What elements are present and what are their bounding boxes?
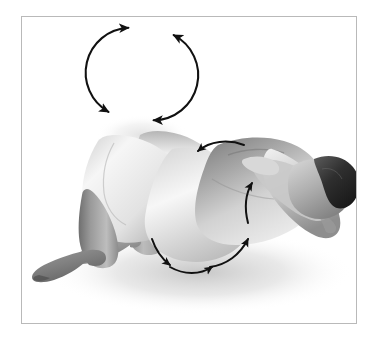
circular-rotation-arrows <box>80 23 203 126</box>
illustration-root: Supine pelvic rotation exercise Person l… <box>0 0 372 339</box>
exercise-scene <box>22 17 356 323</box>
illustration-frame <box>21 16 357 324</box>
